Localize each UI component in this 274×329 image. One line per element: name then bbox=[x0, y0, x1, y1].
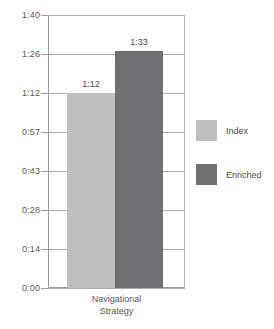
gridline-1-40 bbox=[48, 15, 185, 16]
legend-label-index: Index bbox=[226, 126, 248, 136]
legend-item-enriched[interactable]: Enriched bbox=[196, 164, 262, 185]
y-tick-label-0-14: 0:14 bbox=[0, 244, 40, 254]
x-axis-category-label: Navigational Strategy bbox=[48, 293, 185, 317]
x-axis-category-label-line2: Strategy bbox=[48, 305, 185, 317]
y-tick-label-0-43: 0:43 bbox=[0, 166, 40, 176]
bar-chart: 1:40 1:26 1:12 0:57 0:43 0:28 0:14 0:00 … bbox=[0, 0, 274, 329]
tick-mark-0-00 bbox=[41, 288, 48, 289]
y-tick-label-0-00: 0:00 bbox=[0, 283, 40, 293]
tick-mark-0-43 bbox=[41, 171, 48, 172]
tick-mark-1-26 bbox=[41, 54, 48, 55]
x-axis-category-label-line1: Navigational bbox=[48, 293, 185, 305]
gridline-0-00 bbox=[48, 288, 185, 289]
legend-swatch-enriched-icon bbox=[196, 164, 217, 185]
bar-value-label-enriched: 1:33 bbox=[115, 37, 163, 47]
tick-mark-1-12 bbox=[41, 93, 48, 94]
legend-label-enriched: Enriched bbox=[226, 170, 262, 180]
bar-value-label-index: 1:12 bbox=[67, 79, 115, 89]
tick-mark-0-57 bbox=[41, 132, 48, 133]
y-tick-label-0-28: 0:28 bbox=[0, 205, 40, 215]
legend-item-index[interactable]: Index bbox=[196, 120, 248, 141]
y-tick-label-1-12: 1:12 bbox=[0, 88, 40, 98]
bar-index[interactable] bbox=[67, 93, 115, 288]
y-tick-label-1-40: 1:40 bbox=[0, 10, 40, 20]
tick-mark-0-14 bbox=[41, 249, 48, 250]
y-tick-label-0-57: 0:57 bbox=[0, 127, 40, 137]
bar-enriched[interactable] bbox=[115, 51, 163, 288]
legend-swatch-index-icon bbox=[196, 120, 217, 141]
tick-mark-1-40 bbox=[41, 15, 48, 16]
y-tick-label-1-26: 1:26 bbox=[0, 49, 40, 59]
tick-mark-0-28 bbox=[41, 210, 48, 211]
